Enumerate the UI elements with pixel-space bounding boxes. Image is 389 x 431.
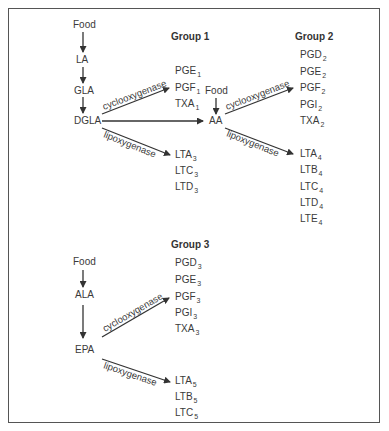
g2-lox-2: LTC4	[300, 181, 323, 193]
enzyme-label-lox-3: lipoxygenase	[102, 359, 158, 387]
g1-lox-2: LTD3	[175, 181, 198, 193]
g1-lox-1: LTC3	[175, 165, 198, 177]
g2-cox-3: PGI2	[300, 99, 322, 111]
node-la: LA	[76, 54, 88, 66]
g3-lox-0: LTA5	[175, 375, 197, 387]
g2-cox-0: PGD2	[300, 49, 327, 61]
enzyme-label-lox-1: lipoxygenase	[102, 129, 158, 160]
g1-cox-1: PGF1	[175, 82, 200, 94]
g2-cox-2: PGF2	[300, 82, 325, 94]
enzyme-label-cox-2: cyclooxygenase	[224, 77, 291, 111]
g2-lox-3: LTD4	[300, 197, 323, 209]
g3-cox-4: TXA3	[175, 323, 199, 335]
g2-lox-1: LTB4	[300, 164, 323, 176]
enzyme-label-cox-1: cyclooxygenase	[101, 77, 168, 111]
food-label-3: Food	[73, 256, 96, 268]
g2-cox-4: TXA2	[300, 115, 324, 127]
group1-title: Group 1	[171, 31, 209, 43]
g1-lox-0: LTA3	[175, 149, 197, 161]
g3-lox-1: LTB5	[175, 391, 198, 403]
food-label-1: Food	[73, 19, 96, 31]
g3-cox-3: PGI3	[175, 307, 197, 319]
g1-cox-2: TXA1	[175, 98, 199, 110]
node-epa: EPA	[75, 344, 94, 356]
g1-cox-0: PGE1	[175, 65, 201, 77]
group2-title: Group 2	[295, 31, 333, 43]
g2-lox-0: LTA4	[300, 148, 322, 160]
g3-cox-0: PGD3	[175, 257, 202, 269]
node-aa: AA	[209, 115, 222, 127]
node-dgla: DGLA	[74, 115, 101, 127]
enzyme-label-lox-2: lipoxygenase	[225, 128, 281, 159]
node-gla: GLA	[74, 85, 94, 97]
node-ala: ALA	[75, 289, 94, 301]
food-label-2: Food	[205, 85, 228, 97]
enzyme-label-cox-3: cyclooxygenase	[101, 290, 165, 333]
g3-cox-1: PGE3	[175, 274, 201, 286]
g2-cox-1: PGE2	[300, 66, 326, 78]
g2-lox-4: LTE4	[300, 213, 323, 225]
g3-lox-2: LTC5	[175, 407, 198, 419]
g3-cox-2: PGF3	[175, 291, 200, 303]
group3-title: Group 3	[171, 239, 209, 251]
